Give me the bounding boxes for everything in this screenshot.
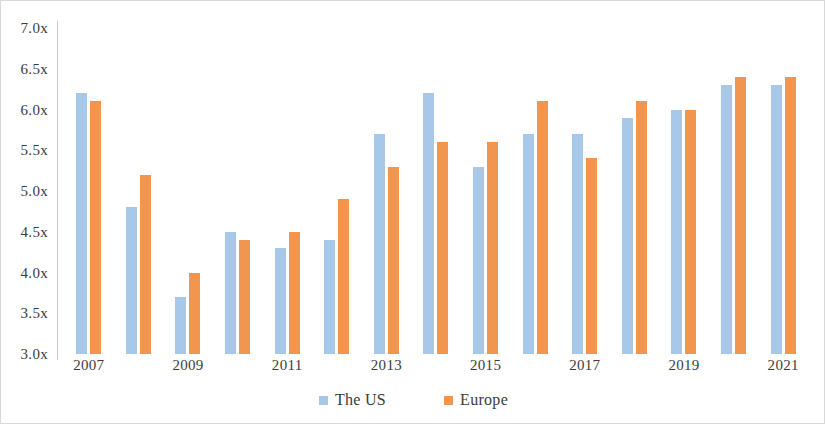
- grouped-bar-chart: 7.0x6.5x6.0x5.5x5.0x4.5x4.0x3.5x3.0x 200…: [0, 0, 825, 424]
- y-axis-tick-label: 5.5x: [21, 142, 48, 159]
- x-axis-tick-label: 2007: [73, 357, 104, 374]
- bar-europe-2017: [586, 158, 597, 354]
- bar-group-2014: [411, 28, 461, 354]
- chart-legend: The USEurope: [1, 391, 825, 409]
- bar-group-2008: [114, 28, 164, 354]
- bar-us-2013: [374, 134, 385, 354]
- bar-europe-2019: [685, 110, 696, 355]
- x-axis-tick-label: 2009: [172, 357, 203, 374]
- y-axis-tick-label: 4.0x: [21, 264, 48, 281]
- legend-item-europe[interactable]: Europe: [444, 391, 508, 409]
- x-axis-tick-label: 2021: [768, 357, 799, 374]
- bar-europe-2010: [239, 240, 250, 354]
- y-axis-tick-label: 7.0x: [21, 20, 48, 37]
- y-axis-tick-label: 4.5x: [21, 223, 48, 240]
- bar-europe-2015: [487, 142, 498, 354]
- bar-group-2018: [610, 28, 660, 354]
- bar-europe-2018: [636, 101, 647, 354]
- y-axis-tick-label: 6.5x: [21, 60, 48, 77]
- bar-europe-2021: [785, 77, 796, 354]
- plot-area: [58, 28, 814, 354]
- bar-group-2011: [262, 28, 312, 354]
- y-axis-tick-label: 5.0x: [21, 183, 48, 200]
- bar-us-2008: [126, 207, 137, 354]
- bar-group-2021: [758, 28, 808, 354]
- bar-group-2007: [64, 28, 114, 354]
- bar-group-2016: [510, 28, 560, 354]
- y-axis-tick-label: 6.0x: [21, 101, 48, 118]
- bar-europe-2014: [437, 142, 448, 354]
- bar-europe-2007: [90, 101, 101, 354]
- bar-us-2014: [423, 93, 434, 354]
- bar-us-2009: [175, 297, 186, 354]
- bar-us-2020: [721, 85, 732, 354]
- bar-us-2015: [473, 167, 484, 354]
- bar-europe-2020: [735, 77, 746, 354]
- legend-swatch-icon: [319, 396, 328, 405]
- bar-europe-2016: [537, 101, 548, 354]
- legend-item-the-us[interactable]: The US: [319, 391, 386, 409]
- x-axis-tick-label: 2017: [569, 357, 600, 374]
- x-axis-tick-label: 2013: [371, 357, 402, 374]
- legend-label: The US: [335, 391, 386, 409]
- bar-group-2019: [659, 28, 709, 354]
- bar-us-2021: [771, 85, 782, 354]
- bar-us-2012: [324, 240, 335, 354]
- bar-us-2017: [572, 134, 583, 354]
- bar-us-2011: [275, 248, 286, 354]
- bar-group-2013: [362, 28, 412, 354]
- y-axis-tick-label: 3.0x: [21, 346, 48, 363]
- bar-group-2012: [312, 28, 362, 354]
- bar-us-2018: [622, 118, 633, 354]
- bar-europe-2008: [140, 175, 151, 354]
- bar-europe-2013: [388, 167, 399, 354]
- bar-us-2016: [523, 134, 534, 354]
- bar-europe-2012: [338, 199, 349, 354]
- bar-group-2020: [709, 28, 759, 354]
- bar-europe-2011: [289, 232, 300, 354]
- bar-group-2017: [560, 28, 610, 354]
- x-axis-tick-label: 2011: [272, 357, 303, 374]
- bar-us-2010: [225, 232, 236, 354]
- bar-group-2009: [163, 28, 213, 354]
- bar-europe-2009: [189, 273, 200, 355]
- y-axis: 7.0x6.5x6.0x5.5x5.0x4.5x4.0x3.5x3.0x: [1, 1, 57, 424]
- legend-swatch-icon: [444, 396, 453, 405]
- bar-us-2019: [671, 110, 682, 355]
- bar-us-2007: [76, 93, 87, 354]
- x-axis: 20072009201120132015201720192021: [58, 357, 814, 383]
- bars-layer: [58, 28, 814, 354]
- x-axis-tick-label: 2015: [470, 357, 501, 374]
- legend-label: Europe: [460, 391, 508, 409]
- y-axis-tick-label: 3.5x: [21, 305, 48, 322]
- bar-group-2010: [213, 28, 263, 354]
- bar-group-2015: [461, 28, 511, 354]
- x-axis-tick-label: 2019: [668, 357, 699, 374]
